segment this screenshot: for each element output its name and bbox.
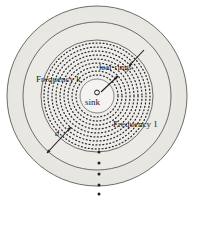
- ellipsis-dot: [98, 184, 101, 187]
- ellipsis-dot: [98, 162, 101, 165]
- ellipsis-dot: [98, 173, 101, 176]
- leaf-rings-label: leaf-rings: [99, 63, 132, 72]
- ring-width-label: d: [55, 130, 59, 138]
- frequency-1-label: Frequency 1: [113, 120, 158, 129]
- ellipsis-dot: [98, 193, 101, 196]
- sink-label: sink: [85, 98, 100, 107]
- ellipsis-dot: [98, 151, 101, 154]
- frequency-k-label: Frequency k: [36, 75, 81, 84]
